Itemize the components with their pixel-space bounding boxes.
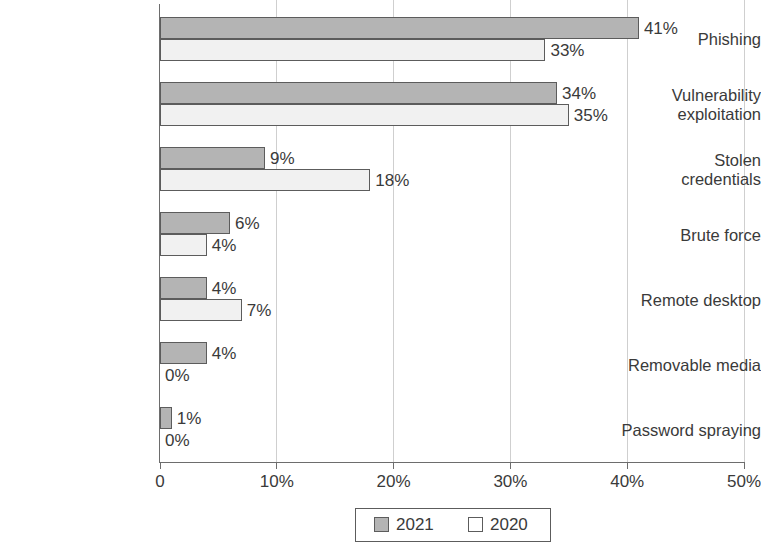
gridline-10% xyxy=(276,0,277,462)
bar-value-label-2020-password-spraying: 0% xyxy=(165,432,190,449)
bar-value-label-2020-brute-force: 4% xyxy=(212,237,237,254)
bar-chart: 010%20%30%40%50% PhishingVulnerability e… xyxy=(0,0,761,547)
bar-2020-remote-desktop xyxy=(160,299,242,321)
bar-2021-password-spraying xyxy=(160,407,172,429)
x-tick-20% xyxy=(393,462,394,469)
legend-entry-2020: 2020 xyxy=(468,516,528,533)
bar-2020-brute-force xyxy=(160,234,207,256)
x-tick-40% xyxy=(627,462,628,469)
bar-value-label-2020-removable-media: 0% xyxy=(165,367,190,384)
gridline-30% xyxy=(510,0,511,462)
category-label-vulnerability-exploitation: Vulnerability exploitation xyxy=(607,86,761,124)
bar-2021-removable-media xyxy=(160,342,207,364)
bar-value-label-2021-password-spraying: 1% xyxy=(177,410,202,427)
series-2021-swatch xyxy=(374,517,389,532)
bar-2020-phishing xyxy=(160,39,545,61)
x-tick-10% xyxy=(276,462,277,469)
bar-value-label-2021-remote-desktop: 4% xyxy=(212,280,237,297)
category-label-removable-media: Removable media xyxy=(607,356,761,375)
bar-2021-vulnerability-exploitation xyxy=(160,82,557,104)
x-tick-label-10%: 10% xyxy=(260,472,294,492)
chart-legend: 2021 2020 xyxy=(355,508,551,542)
bar-2020-stolen-credentials xyxy=(160,169,370,191)
bar-2021-brute-force xyxy=(160,212,230,234)
bar-2021-stolen-credentials xyxy=(160,147,265,169)
bar-value-label-2021-phishing: 41% xyxy=(644,20,678,37)
legend-label-2020: 2020 xyxy=(490,516,528,533)
x-tick-30% xyxy=(510,462,511,469)
category-label-remote-desktop: Remote desktop xyxy=(607,291,761,310)
bar-value-label-2020-remote-desktop: 7% xyxy=(247,302,272,319)
x-tick-50% xyxy=(744,462,745,469)
bar-2021-remote-desktop xyxy=(160,277,207,299)
bar-value-label-2020-vulnerability-exploitation: 35% xyxy=(574,107,608,124)
bar-value-label-2021-brute-force: 6% xyxy=(235,215,260,232)
category-label-password-spraying: Password spraying xyxy=(607,421,761,440)
bar-value-label-2021-vulnerability-exploitation: 34% xyxy=(562,85,596,102)
gridline-20% xyxy=(393,0,394,462)
x-axis-line xyxy=(159,462,745,463)
x-tick-label-20%: 20% xyxy=(377,472,411,492)
legend-label-2021: 2021 xyxy=(396,516,434,533)
x-tick-label-40%: 40% xyxy=(610,472,644,492)
x-tick-label-0: 0 xyxy=(155,472,164,492)
category-label-brute-force: Brute force xyxy=(607,226,761,245)
x-tick-0 xyxy=(160,462,161,469)
bar-value-label-2020-phishing: 33% xyxy=(550,42,584,59)
x-tick-label-30%: 30% xyxy=(493,472,527,492)
bar-value-label-2021-stolen-credentials: 9% xyxy=(270,150,295,167)
category-label-stolen-credentials: Stolen credentials xyxy=(607,151,761,189)
bar-value-label-2021-removable-media: 4% xyxy=(212,345,237,362)
bar-value-label-2020-stolen-credentials: 18% xyxy=(375,172,409,189)
bar-2020-vulnerability-exploitation xyxy=(160,104,569,126)
series-2020-swatch xyxy=(468,517,483,532)
bar-2021-phishing xyxy=(160,17,639,39)
legend-entry-2021: 2021 xyxy=(374,516,434,533)
x-tick-label-50%: 50% xyxy=(727,472,761,492)
